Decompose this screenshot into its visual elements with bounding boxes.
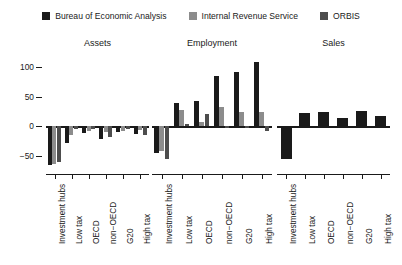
legend-entry-bea: Bureau of Economic Analysis bbox=[42, 12, 166, 21]
x-tick-label: OECD bbox=[205, 220, 214, 244]
x-tick-label: High tax bbox=[384, 214, 393, 244]
bar bbox=[87, 126, 91, 130]
x-tick-mark bbox=[222, 175, 223, 179]
x-tick-label: OECD bbox=[327, 220, 336, 244]
y-tick-label: −50 bbox=[20, 151, 34, 161]
zero-baseline bbox=[277, 126, 390, 127]
bar bbox=[259, 112, 264, 127]
bar bbox=[205, 114, 210, 126]
bar bbox=[219, 107, 224, 126]
panel-title-sales: Sales bbox=[277, 38, 390, 48]
y-tick-label: 50 bbox=[25, 92, 34, 102]
bar bbox=[134, 126, 138, 133]
bar bbox=[234, 72, 239, 127]
panel-assets: Investment hubsLow taxOECDnon−OECDG20Hig… bbox=[46, 58, 149, 168]
legend-swatch-irs bbox=[189, 12, 197, 20]
bar bbox=[121, 126, 125, 131]
bar bbox=[57, 126, 61, 162]
bar bbox=[239, 112, 244, 126]
x-tick-label: G20 bbox=[126, 229, 135, 244]
x-tick-label: Low tax bbox=[75, 216, 84, 244]
x-axis-line bbox=[46, 174, 149, 175]
x-tick-mark bbox=[140, 175, 141, 179]
x-tick-label: G20 bbox=[245, 229, 254, 244]
bar bbox=[318, 112, 329, 126]
bar bbox=[194, 101, 199, 127]
zero-baseline bbox=[152, 126, 272, 127]
x-tick-mark bbox=[262, 175, 263, 179]
bar bbox=[225, 126, 230, 128]
y-tick-mark bbox=[36, 126, 42, 127]
x-tick-mark bbox=[305, 175, 306, 179]
bar bbox=[199, 122, 204, 127]
bar bbox=[82, 126, 86, 133]
bar-chart-figure: Bureau of Economic Analysis Internal Rev… bbox=[0, 0, 402, 265]
bar bbox=[185, 124, 190, 126]
x-tick-label: G20 bbox=[365, 229, 374, 244]
bar bbox=[104, 126, 108, 131]
x-tick-mark bbox=[72, 175, 73, 179]
x-tick-mark bbox=[182, 175, 183, 179]
bar bbox=[245, 126, 250, 128]
x-tick-mark bbox=[89, 175, 90, 179]
y-tick-mark bbox=[36, 97, 42, 98]
bar bbox=[299, 113, 310, 126]
x-tick-mark bbox=[381, 175, 382, 179]
x-tick-mark bbox=[343, 175, 344, 179]
bar bbox=[165, 126, 170, 159]
legend-entry-irs: Internal Revenue Service bbox=[189, 12, 299, 21]
bar bbox=[143, 126, 147, 134]
x-axis-line bbox=[277, 174, 390, 175]
bar bbox=[116, 126, 120, 132]
bar bbox=[48, 126, 52, 165]
bar bbox=[337, 118, 348, 126]
x-tick-label: Low tax bbox=[185, 216, 194, 244]
x-tick-mark bbox=[362, 175, 363, 179]
bar bbox=[74, 126, 78, 129]
x-tick-mark bbox=[55, 175, 56, 179]
x-tick-label: High tax bbox=[265, 214, 274, 244]
x-tick-label: Investment hubs bbox=[165, 184, 174, 244]
y-tick-mark bbox=[36, 67, 42, 68]
x-tick-mark bbox=[242, 175, 243, 179]
bar bbox=[69, 126, 73, 135]
panel-title-employment: Employment bbox=[152, 38, 272, 48]
chart-legend: Bureau of Economic Analysis Internal Rev… bbox=[0, 9, 402, 23]
bar bbox=[356, 111, 367, 126]
x-axis-line bbox=[152, 174, 272, 175]
legend-label-irs: Internal Revenue Service bbox=[202, 12, 299, 21]
bar bbox=[65, 126, 69, 143]
bar bbox=[174, 103, 179, 127]
bar bbox=[281, 126, 292, 159]
bar bbox=[375, 116, 386, 127]
legend-label-orbis: ORBIS bbox=[333, 12, 360, 21]
bar bbox=[214, 76, 219, 126]
x-tick-label: OECD bbox=[92, 220, 101, 244]
x-tick-mark bbox=[162, 175, 163, 179]
y-axis: 100500−50 bbox=[0, 0, 46, 265]
bar bbox=[99, 126, 103, 139]
x-tick-mark bbox=[286, 175, 287, 179]
x-tick-label: non−OECD bbox=[346, 202, 355, 244]
x-tick-mark bbox=[202, 175, 203, 179]
bar bbox=[126, 126, 130, 129]
bar bbox=[108, 126, 112, 137]
x-tick-mark bbox=[106, 175, 107, 179]
legend-swatch-orbis bbox=[320, 12, 328, 20]
y-tick-label: 0 bbox=[29, 121, 34, 131]
x-tick-label: non−OECD bbox=[109, 202, 118, 244]
bar bbox=[91, 126, 95, 128]
panel-title-assets: Assets bbox=[46, 38, 149, 48]
x-tick-label: Low tax bbox=[308, 216, 317, 244]
bar bbox=[138, 126, 142, 130]
x-tick-mark bbox=[123, 175, 124, 179]
legend-entry-orbis: ORBIS bbox=[320, 12, 360, 21]
x-tick-label: High tax bbox=[143, 214, 152, 244]
bar bbox=[179, 110, 184, 126]
bar bbox=[265, 126, 270, 131]
x-tick-label: Investment hubs bbox=[289, 184, 298, 244]
panel-employment: Investment hubsLow taxOECDnon−OECDG20Hig… bbox=[152, 58, 272, 168]
bar bbox=[154, 126, 159, 153]
bar bbox=[254, 62, 259, 126]
legend-label-bea: Bureau of Economic Analysis bbox=[55, 12, 166, 21]
